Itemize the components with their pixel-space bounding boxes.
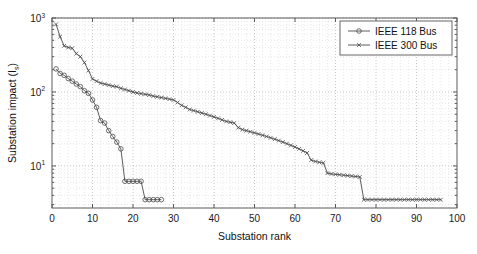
xtick-label: 40 (208, 213, 220, 224)
xtick-label: 0 (49, 213, 55, 224)
legend-label-2: IEEE 300 Bus (375, 40, 437, 51)
legend-label-1: IEEE 118 Bus (375, 26, 437, 37)
figure-container: 0102030405060708090100101102103Substatio… (0, 0, 477, 254)
xtick-label: 80 (370, 213, 382, 224)
xtick-label: 60 (289, 213, 301, 224)
ytick-label: 102 (30, 85, 45, 98)
xtick-label: 90 (411, 213, 423, 224)
x-axis-title: Substation rank (218, 230, 292, 242)
ytick-label: 103 (30, 12, 45, 25)
ytick-label: 101 (30, 159, 45, 172)
y-axis-title: Substation impact (Is) (6, 63, 20, 163)
xtick-label: 50 (249, 213, 261, 224)
xtick-label: 20 (127, 213, 139, 224)
xtick-label: 100 (449, 213, 466, 224)
xtick-label: 10 (87, 213, 99, 224)
xtick-label: 30 (168, 213, 180, 224)
chart-svg: 0102030405060708090100101102103Substatio… (0, 0, 477, 254)
xtick-label: 70 (330, 213, 342, 224)
